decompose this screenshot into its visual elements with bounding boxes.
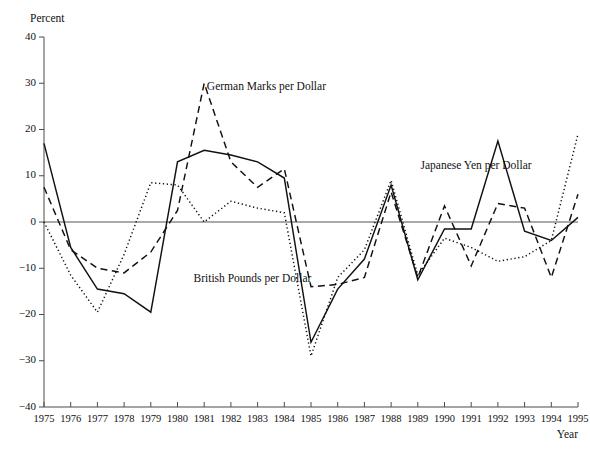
x-axis-tick-label: 1977: [87, 413, 108, 424]
x-axis-tick-label: 1986: [327, 413, 348, 424]
x-axis-tick-label: 1993: [514, 413, 535, 424]
series-annotation-group: British Pounds per DollarGerman Marks pe…: [194, 80, 532, 285]
y-axis-tick-label: 30: [25, 76, 37, 88]
x-axis-tick-label: 1987: [354, 413, 375, 424]
x-axis-tick-label: 1982: [220, 413, 241, 424]
series-label-german-marks-per-dollar: German Marks per Dollar: [207, 80, 326, 93]
x-axis: 1975197619771978197919801981198219831984…: [34, 402, 589, 424]
chart-container: Percent Year 403020100−10−20−30−40 19751…: [0, 0, 590, 453]
x-axis-title: Year: [557, 428, 578, 440]
y-axis-tick-label: 40: [25, 30, 37, 42]
series-label-japanese-yen-per-dollar: Japanese Yen per Dollar: [420, 159, 531, 172]
x-axis-tick-label: 1994: [541, 413, 563, 424]
series-label-british-pounds-per-dollar: British Pounds per Dollar: [194, 272, 312, 285]
y-axis-tick-label: 10: [25, 168, 37, 180]
y-axis-tick-label: −10: [19, 261, 37, 273]
exchange-rate-line-chart: Percent Year 403020100−10−20−30−40 19751…: [0, 0, 590, 453]
y-axis-tick-label: −20: [19, 307, 37, 319]
series-line-british-pounds-per-dollar: [44, 141, 578, 342]
x-axis-tick-label: 1992: [487, 413, 508, 424]
y-axis-tick-label: −30: [19, 353, 37, 365]
y-axis-title-group: Percent: [30, 12, 65, 24]
x-axis-tick-label: 1984: [274, 413, 296, 424]
x-axis-tick-label: 1976: [60, 413, 81, 424]
x-axis-tick-label: 1980: [167, 413, 188, 424]
x-axis-tick-label: 1981: [194, 413, 215, 424]
x-axis-tick-label: 1995: [568, 413, 589, 424]
y-axis: 403020100−10−20−30−40: [19, 30, 44, 412]
series-line-german-marks-per-dollar: [44, 83, 578, 287]
y-axis-title: Percent: [30, 12, 65, 24]
x-axis-tick-label: 1979: [140, 413, 161, 424]
x-axis-title-group: Year: [557, 428, 578, 440]
y-axis-tick-label: 20: [25, 122, 37, 134]
x-axis-tick-label: 1978: [114, 413, 135, 424]
x-axis-tick-label: 1990: [434, 413, 455, 424]
x-axis-tick-label: 1991: [461, 413, 482, 424]
x-axis-tick-label: 1985: [301, 413, 322, 424]
data-series-group: [44, 83, 578, 356]
x-axis-tick-label: 1988: [381, 413, 402, 424]
y-axis-tick-label: −40: [19, 400, 37, 412]
x-axis-tick-label: 1989: [407, 413, 428, 424]
y-axis-tick-label: 0: [31, 215, 37, 227]
x-axis-tick-label: 1975: [34, 413, 55, 424]
x-axis-tick-label: 1983: [247, 413, 268, 424]
